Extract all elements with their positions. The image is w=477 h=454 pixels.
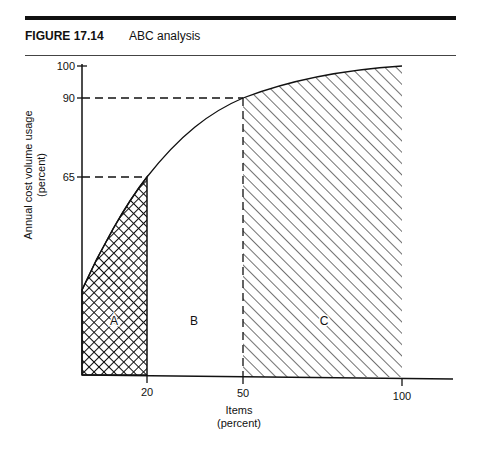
- y-axis-label: Annual cost volume usage: [22, 110, 34, 239]
- region-label-c: C: [320, 314, 329, 328]
- x-tick-100: 100: [393, 390, 411, 402]
- x-axis-label: Items: [226, 404, 253, 416]
- y-tick-100: 100: [57, 60, 75, 72]
- abc-chart: 100 90 65 20 50 100 A B C Items (percent…: [0, 0, 477, 454]
- region-a: [82, 177, 147, 375]
- y-tick-90: 90: [63, 92, 75, 104]
- y-axis-label-unit: (percent): [35, 153, 47, 197]
- region-label-a: A: [110, 314, 118, 328]
- x-tick-20: 20: [141, 386, 153, 398]
- x-axis-label-unit: (percent): [217, 417, 261, 429]
- y-tick-65: 65: [63, 171, 75, 183]
- x-tick-50: 50: [237, 387, 249, 399]
- region-label-b: B: [190, 314, 198, 328]
- region-c: [243, 66, 402, 377]
